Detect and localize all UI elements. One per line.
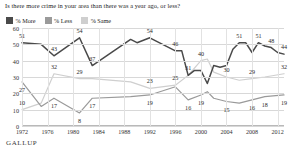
y-axis-tick-60: 60	[13, 25, 19, 32]
data-label-same-2008: 29	[249, 69, 255, 75]
chart-container: Is there more crime in your area than th…	[0, 0, 292, 156]
gridline-x-1984	[99, 28, 100, 126]
data-label-more-2013: 44	[281, 44, 287, 50]
data-label-more-1996: 46	[172, 41, 178, 47]
legend-swatch-same	[81, 17, 88, 24]
gridline-x-2008	[252, 28, 253, 126]
legend-item-more[interactable]: % More	[6, 17, 36, 24]
data-label-more-1998: 31	[185, 65, 191, 71]
x-axis-tick-1988: 1988	[118, 129, 130, 135]
data-label-more-2006: 51	[236, 33, 242, 39]
data-label-same-1977: 32	[51, 64, 57, 70]
x-axis-tick-1992: 1992	[144, 129, 156, 135]
data-label-less-1972: 27	[19, 87, 25, 93]
data-label-more-2011: 48	[268, 38, 274, 44]
x-axis-tick-1972: 1972	[16, 129, 28, 135]
legend-swatch-more	[6, 17, 13, 24]
legend-swatch-less	[45, 17, 52, 24]
gridline-y-60	[22, 28, 284, 29]
data-label-less-1998: 16	[185, 105, 191, 111]
chart-title: Is there more crime in your area than th…	[5, 2, 289, 10]
legend-label-less: % Less	[54, 17, 72, 24]
data-label-less-1981: 8	[78, 118, 81, 124]
data-label-less-2013: 19	[281, 100, 287, 106]
data-label-more-1972: 51	[19, 33, 25, 39]
data-label-less-1992: 19	[147, 100, 153, 106]
data-label-more-1981: 54	[76, 28, 82, 34]
data-label-less-2000: 19	[198, 100, 204, 106]
data-label-same-2013: 32	[281, 64, 287, 70]
x-axis-tick-2008: 2008	[246, 129, 258, 135]
data-label-less-1977: 17	[51, 103, 57, 109]
data-label-more-1977: 43	[51, 46, 57, 52]
gridline-x-2000	[201, 28, 202, 126]
gridline-x-1976	[48, 28, 49, 126]
data-label-same-1992: 23	[147, 78, 153, 84]
legend-item-same[interactable]: % Same	[81, 17, 111, 24]
y-axis-tick-30: 30	[13, 74, 19, 81]
legend-label-same: % Same	[91, 17, 111, 24]
legend-label-more: % More	[16, 17, 36, 24]
y-axis-tick-40: 40	[13, 57, 19, 64]
gridline-x-1972	[22, 28, 23, 126]
x-axis-tick-2012: 2012	[272, 129, 284, 135]
gridline-y-10	[22, 110, 284, 111]
gridline-x-1980	[73, 28, 74, 126]
chart-legend: % More% Less% Same	[6, 15, 111, 25]
plot-area: 0102030405060197219761980198419881992199…	[22, 28, 284, 126]
gridline-x-2012	[278, 28, 279, 126]
data-label-more-2009: 51	[255, 33, 261, 39]
x-axis-tick-1976: 1976	[41, 129, 53, 135]
gridline-y-20	[22, 93, 284, 94]
data-label-less-2004: 15	[223, 107, 229, 113]
data-label-same-2004: 30	[223, 67, 229, 73]
legend-item-less[interactable]: % Less	[45, 17, 73, 24]
data-label-same-1996: 25	[172, 75, 178, 81]
x-axis-tick-1996: 1996	[169, 129, 181, 135]
gridline-y-30	[22, 77, 284, 78]
y-axis-tick-50: 50	[13, 41, 19, 48]
data-label-same-2000: 40	[198, 51, 204, 57]
data-label-less-2008: 16	[249, 105, 255, 111]
gridline-y-50	[22, 44, 284, 45]
gridline-y-40	[22, 61, 284, 62]
data-label-same-1981: 29	[76, 69, 82, 75]
data-label-less-1983: 17	[89, 103, 95, 109]
source-logo: GALLUP	[6, 139, 37, 147]
data-label-less-2010: 18	[262, 102, 268, 108]
x-axis-tick-1984: 1984	[93, 129, 105, 135]
y-axis-tick-10: 10	[13, 106, 19, 113]
x-axis-tick-2004: 2004	[220, 129, 232, 135]
data-label-more-1992: 54	[147, 28, 153, 34]
data-label-more-1983: 37	[89, 56, 95, 62]
x-axis-tick-1980: 1980	[67, 129, 79, 135]
gridline-x-1988	[124, 28, 125, 126]
gridline-y-0	[22, 126, 284, 127]
x-axis-tick-2000: 2000	[195, 129, 207, 135]
gridline-x-1992	[150, 28, 151, 126]
line-less	[22, 82, 284, 113]
data-label-same-1972: 10	[19, 100, 25, 106]
